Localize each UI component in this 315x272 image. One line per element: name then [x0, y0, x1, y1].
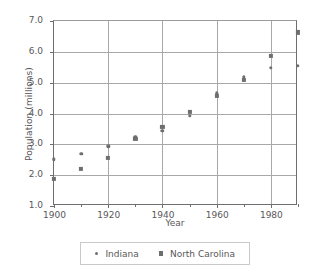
gridline-horizontal	[54, 175, 296, 176]
y-tick-label: 5.0	[29, 77, 43, 87]
data-point	[79, 167, 83, 171]
legend-item-indiana: Indiana	[95, 249, 139, 259]
data-point	[133, 137, 137, 141]
x-tick: 1940	[162, 204, 163, 208]
chart-legend: IndianaNorth Carolina	[80, 242, 250, 265]
x-tick-minor	[244, 204, 245, 207]
circle-marker-icon	[95, 252, 98, 255]
legend-item-north-carolina: North Carolina	[159, 249, 235, 259]
x-tick-minor	[298, 204, 299, 207]
square-marker-icon	[159, 251, 163, 255]
x-tick-minor	[135, 204, 136, 207]
x-tick: 1920	[108, 204, 109, 208]
data-point	[296, 64, 299, 67]
gridline-vertical	[217, 21, 218, 204]
legend-label: North Carolina	[170, 249, 235, 259]
gridline-horizontal	[54, 144, 296, 145]
y-tick: 6.0	[50, 52, 54, 53]
gridline-vertical	[162, 21, 163, 204]
y-tick-label: 7.0	[29, 15, 43, 25]
population-scatter-chart: Population (millions) 1.02.03.04.05.06.0…	[0, 0, 315, 272]
x-axis-title: Year	[53, 218, 297, 228]
data-point	[161, 129, 164, 132]
data-point	[188, 114, 191, 117]
x-tick-minor	[81, 204, 82, 207]
data-point	[79, 152, 82, 155]
data-point	[269, 53, 273, 57]
data-point	[52, 176, 56, 180]
data-point	[296, 30, 300, 34]
gridline-horizontal	[54, 52, 296, 53]
y-tick: 5.0	[50, 83, 54, 84]
data-point	[160, 125, 164, 129]
gridline-vertical	[108, 21, 109, 204]
data-point	[106, 156, 110, 160]
data-point	[187, 110, 191, 114]
y-tick-label: 3.0	[29, 138, 43, 148]
y-tick: 4.0	[50, 114, 54, 115]
y-tick-label: 2.0	[29, 169, 43, 179]
y-tick-label: 1.0	[29, 200, 43, 210]
legend-label: Indiana	[105, 249, 138, 259]
y-tick: 3.0	[50, 144, 54, 145]
x-tick: 1980	[271, 204, 272, 208]
data-point	[107, 145, 110, 148]
plot-area: 1.02.03.04.05.06.07.0 190019201940196019…	[53, 20, 297, 205]
data-point	[269, 66, 272, 69]
gridline-horizontal	[54, 114, 296, 115]
y-tick-label: 6.0	[29, 46, 43, 56]
gridline-horizontal	[54, 83, 296, 84]
y-tick-label: 4.0	[29, 108, 43, 118]
data-point	[215, 94, 219, 98]
data-point	[52, 157, 55, 160]
x-tick: 1960	[217, 204, 218, 208]
x-tick-minor	[190, 204, 191, 207]
x-tick: 1900	[54, 204, 55, 208]
y-tick: 7.0	[50, 21, 54, 22]
gridline-vertical	[271, 21, 272, 204]
data-point	[242, 78, 246, 82]
